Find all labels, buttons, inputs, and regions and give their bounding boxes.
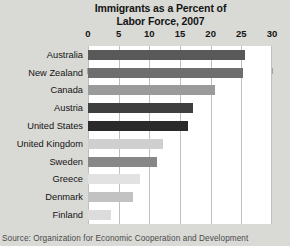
bar-finland (88, 210, 111, 220)
category-label-new-zealand: New Zealand (0, 68, 83, 78)
x-tick-label-30: 30 (267, 28, 278, 39)
bar-row: Finland (0, 206, 290, 224)
bar-united-states (88, 121, 188, 131)
bar-row: United States (0, 117, 290, 135)
x-axis-tick-labels: 051015202530 (88, 28, 272, 40)
bar-denmark (88, 192, 133, 202)
x-tick-label-20: 20 (205, 28, 216, 39)
source-note: Source: Organization for Economic Cooper… (2, 234, 290, 243)
category-label-united-states: United States (0, 121, 83, 131)
bar-rows: AustraliaNew ZealandCanadaAustriaUnited … (0, 46, 290, 224)
category-label-austria: Austria (0, 103, 83, 113)
category-label-united-kingdom: United Kingdom (0, 139, 83, 149)
x-tick-label-15: 15 (175, 28, 186, 39)
bar-row: United Kingdom (0, 135, 290, 153)
chart-figure: Immigrants as a Percent of Labor Force, … (0, 0, 290, 246)
category-label-denmark: Denmark (0, 192, 83, 202)
x-tick-label-0: 0 (85, 28, 90, 39)
bar-row: Greece (0, 171, 290, 189)
category-label-greece: Greece (0, 174, 83, 184)
category-label-sweden: Sweden (0, 157, 83, 167)
bar-row: Canada (0, 82, 290, 100)
bar-new-zealand (88, 68, 243, 78)
bar-row: Sweden (0, 153, 290, 171)
x-tick-label-10: 10 (144, 28, 155, 39)
bar-row: Australia (0, 46, 290, 64)
chart-title-line-2: Labor Force, 2007 (58, 15, 263, 28)
bar-row: Austria (0, 99, 290, 117)
x-tick-label-5: 5 (116, 28, 121, 39)
bar-greece (88, 174, 140, 184)
category-label-finland: Finland (0, 210, 83, 220)
category-label-australia: Australia (0, 50, 83, 60)
category-label-canada: Canada (0, 85, 83, 95)
x-tick-label-25: 25 (236, 28, 247, 39)
bar-row: Denmark (0, 188, 290, 206)
chart-title: Immigrants as a Percent of Labor Force, … (58, 2, 263, 27)
chart-title-line-1: Immigrants as a Percent of (58, 2, 263, 15)
bar-canada (88, 85, 215, 95)
bar-australia (88, 50, 245, 60)
bar-united-kingdom (88, 139, 163, 149)
bar-sweden (88, 157, 157, 167)
bar-austria (88, 103, 193, 113)
bar-row: New Zealand (0, 64, 290, 82)
